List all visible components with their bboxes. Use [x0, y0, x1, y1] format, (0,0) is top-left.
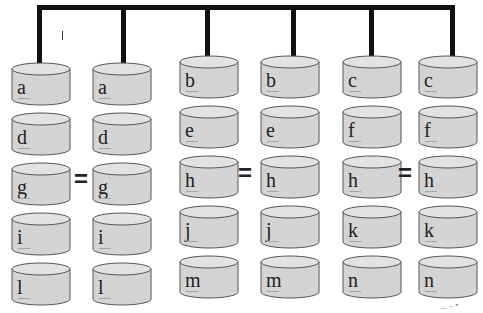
disk-label-underline [425, 141, 437, 142]
mirror-equals-1: = [74, 169, 88, 189]
disk-label-underline [18, 298, 30, 299]
disk: d [92, 112, 152, 156]
disk: g [11, 162, 71, 206]
disk: l [92, 262, 152, 306]
disk-label-underline [349, 141, 361, 142]
disk-label: d [17, 126, 27, 148]
bus-horizontal [37, 5, 455, 10]
disk-label-underline [99, 98, 111, 99]
disk-label-underline [425, 91, 437, 92]
disk: m [260, 255, 320, 299]
disk-label: a [98, 76, 107, 98]
disk-label-underline [349, 291, 361, 292]
disk-label: c [424, 69, 433, 91]
disk-label-underline [267, 191, 279, 192]
disk-label: j [185, 219, 191, 241]
bus-drop-5 [369, 5, 374, 62]
disk-label-underline [349, 191, 361, 192]
disk-label-underline [425, 191, 437, 192]
disk-label: c [348, 69, 357, 91]
disk: j [179, 205, 239, 249]
disk-label: e [266, 119, 275, 141]
disk-label-underline [425, 291, 437, 292]
disk: k [418, 205, 478, 249]
disk: i [11, 212, 71, 256]
disk-label: k [348, 219, 358, 241]
disk-label: m [185, 269, 201, 291]
disk-label: i [17, 226, 23, 248]
disk-label: a [17, 76, 26, 98]
disk: h [418, 155, 478, 199]
disk-label: l [98, 276, 104, 298]
disk-label-underline [99, 148, 111, 149]
disk: l [11, 262, 71, 306]
disk-label: h [266, 169, 276, 191]
disk-label: m [266, 269, 282, 291]
disk: d [11, 112, 71, 156]
disk: b [260, 55, 320, 99]
footnote: … ·· ″ [440, 303, 458, 310]
disk-label: d [98, 126, 108, 148]
disk: c [342, 55, 402, 99]
disk-label-underline [267, 241, 279, 242]
disk: n [418, 255, 478, 299]
disk-label-underline [186, 241, 198, 242]
disk: h [342, 155, 402, 199]
disk-label: h [185, 169, 195, 191]
disk-label: f [424, 119, 431, 141]
disk: e [179, 105, 239, 149]
cursor-mark [62, 31, 63, 40]
disk-label-underline [267, 291, 279, 292]
disk: c [418, 55, 478, 99]
disk: b [179, 55, 239, 99]
disk-label-underline [99, 298, 111, 299]
disk-label-underline [99, 248, 111, 249]
disk-label: k [424, 219, 434, 241]
disk-label-underline [186, 291, 198, 292]
disk-label-underline [349, 241, 361, 242]
disk-label: b [185, 69, 195, 91]
disk-label: e [185, 119, 194, 141]
disk-label: g [98, 176, 108, 198]
disk: a [92, 62, 152, 106]
bus-drop-6 [450, 5, 455, 62]
disk-label: n [348, 269, 358, 291]
disk: i [92, 212, 152, 256]
disk-label-underline [18, 248, 30, 249]
disk-label-underline [186, 91, 198, 92]
bus-drop-1 [37, 5, 42, 69]
disk-label: n [424, 269, 434, 291]
disk-label-underline [18, 98, 30, 99]
bus-drop-3 [205, 5, 210, 62]
disk: n [342, 255, 402, 299]
disk: h [260, 155, 320, 199]
disk-label-underline [18, 198, 30, 199]
disk-label-underline [267, 141, 279, 142]
disk: h [179, 155, 239, 199]
disk-label: f [348, 119, 355, 141]
disk-label-underline [425, 241, 437, 242]
disk-label: l [17, 276, 23, 298]
bus-drop-4 [291, 5, 296, 62]
disk-label-underline [186, 141, 198, 142]
disk-label-underline [349, 91, 361, 92]
disk-label-underline [99, 198, 111, 199]
disk: f [418, 105, 478, 149]
disk: a [11, 62, 71, 106]
bus-drop-2 [121, 5, 126, 69]
disk-label: g [17, 176, 27, 198]
mirror-equals-3: = [398, 163, 412, 183]
disk-label-underline [186, 191, 198, 192]
disk: f [342, 105, 402, 149]
disk-label-underline [267, 91, 279, 92]
disk-label: j [266, 219, 272, 241]
disk-label-underline [18, 148, 30, 149]
mirror-equals-2: = [238, 163, 252, 183]
disk-label: h [348, 169, 358, 191]
disk-label: h [424, 169, 434, 191]
disk: e [260, 105, 320, 149]
disk: k [342, 205, 402, 249]
disk: g [92, 162, 152, 206]
disk: m [179, 255, 239, 299]
disk-label: i [98, 226, 104, 248]
